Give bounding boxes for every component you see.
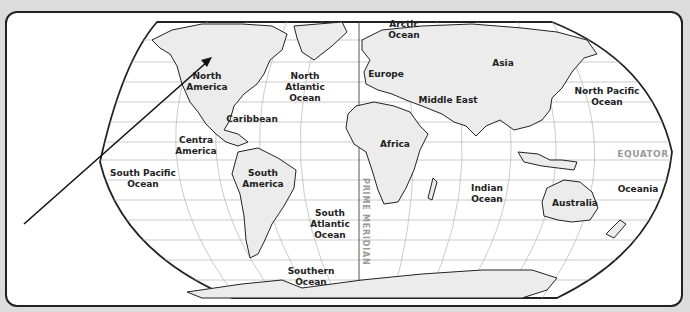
label-equator: EQUATOR xyxy=(617,149,668,160)
label-southern-ocean: Southern Ocean xyxy=(288,266,335,288)
label-europe: Europe xyxy=(368,69,404,80)
label-oceania: Oceania xyxy=(618,184,659,195)
label-australia: Australia xyxy=(552,198,598,209)
label-arctic-ocean: Arctic Ocean xyxy=(388,19,420,41)
label-south-america: South America xyxy=(242,168,283,190)
label-north-atlantic-ocean: North Atlantic Ocean xyxy=(285,71,325,104)
label-indian-ocean: Indian Ocean xyxy=(471,183,503,205)
label-south-pacific-ocean: South Pacific Ocean xyxy=(110,168,176,190)
label-africa: Africa xyxy=(380,139,410,150)
label-south-atlantic-ocean: South Atlantic Ocean xyxy=(310,208,350,241)
world-map xyxy=(7,13,683,307)
label-prime-meridian: PRIME MERIDIAN xyxy=(361,178,370,265)
label-caribbean: Caribbean xyxy=(226,114,278,125)
map-frame: North America North Atlantic Ocean Arcti… xyxy=(5,11,683,307)
label-central-america: Centra America xyxy=(175,135,216,157)
label-asia: Asia xyxy=(492,58,513,69)
label-north-pacific-ocean: North Pacific Ocean xyxy=(575,86,640,108)
label-middle-east: Middle East xyxy=(418,95,477,106)
label-north-america: North America xyxy=(186,71,227,93)
